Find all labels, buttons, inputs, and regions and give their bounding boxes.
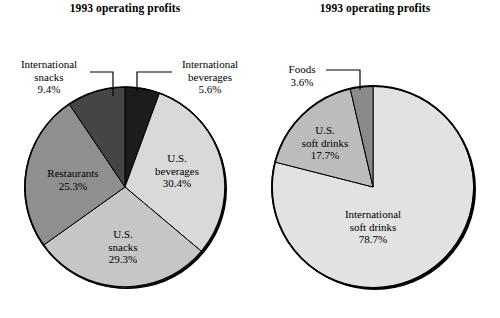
left-label-international-snacks-value: 9.4%	[6, 83, 92, 96]
left-label-us-snacks: U.S. snacks 29.3%	[92, 228, 154, 266]
left-label-international-beverages: International beverages 5.6%	[172, 58, 248, 96]
left-label-international-snacks-line2: snacks	[6, 71, 92, 84]
left-label-us-beverages: U.S. beverages 30.4%	[140, 152, 214, 190]
left-label-us-snacks-line2: snacks	[92, 241, 154, 254]
right-label-international-soft-drinks-value: 78.7%	[326, 233, 420, 246]
right-label-international-soft-drinks-line2: soft drinks	[326, 221, 420, 234]
left-label-us-beverages-value: 30.4%	[140, 177, 214, 190]
right-label-us-soft-drinks-line1: U.S.	[286, 124, 364, 137]
left-label-international-beverages-value: 5.6%	[172, 83, 248, 96]
right-label-international-soft-drinks-line1: International	[326, 208, 420, 221]
left-label-restaurants-value: 25.3%	[34, 180, 112, 193]
right-label-us-soft-drinks: U.S. soft drinks 17.7%	[286, 124, 364, 162]
right-label-international-soft-drinks: International soft drinks 78.7%	[326, 208, 420, 246]
left-label-international-beverages-line1: International	[172, 58, 248, 71]
right-label-us-soft-drinks-value: 17.7%	[286, 149, 364, 162]
left-label-international-snacks-line1: International	[6, 58, 92, 71]
right-label-foods-line1: Foods	[276, 63, 328, 76]
right-label-foods-value: 3.6%	[276, 76, 328, 89]
right-label-foods: Foods 3.6%	[276, 63, 328, 88]
left-label-us-snacks-value: 29.3%	[92, 253, 154, 266]
left-label-us-snacks-line1: U.S.	[92, 228, 154, 241]
left-label-international-beverages-line2: beverages	[172, 71, 248, 84]
pie-chart-figure: 1993 operating profits International	[0, 0, 500, 318]
left-label-us-beverages-line2: beverages	[140, 165, 214, 178]
right-chart-panel: 1993 operating profits Foods 3.6% U.S. s…	[250, 0, 500, 318]
left-label-restaurants-line1: Restaurants	[34, 167, 112, 180]
right-label-us-soft-drinks-line2: soft drinks	[286, 137, 364, 150]
left-label-international-snacks: International snacks 9.4%	[6, 58, 92, 96]
left-chart-panel: 1993 operating profits International	[0, 0, 250, 318]
left-label-us-beverages-line1: U.S.	[140, 152, 214, 165]
left-label-restaurants: Restaurants 25.3%	[34, 167, 112, 192]
